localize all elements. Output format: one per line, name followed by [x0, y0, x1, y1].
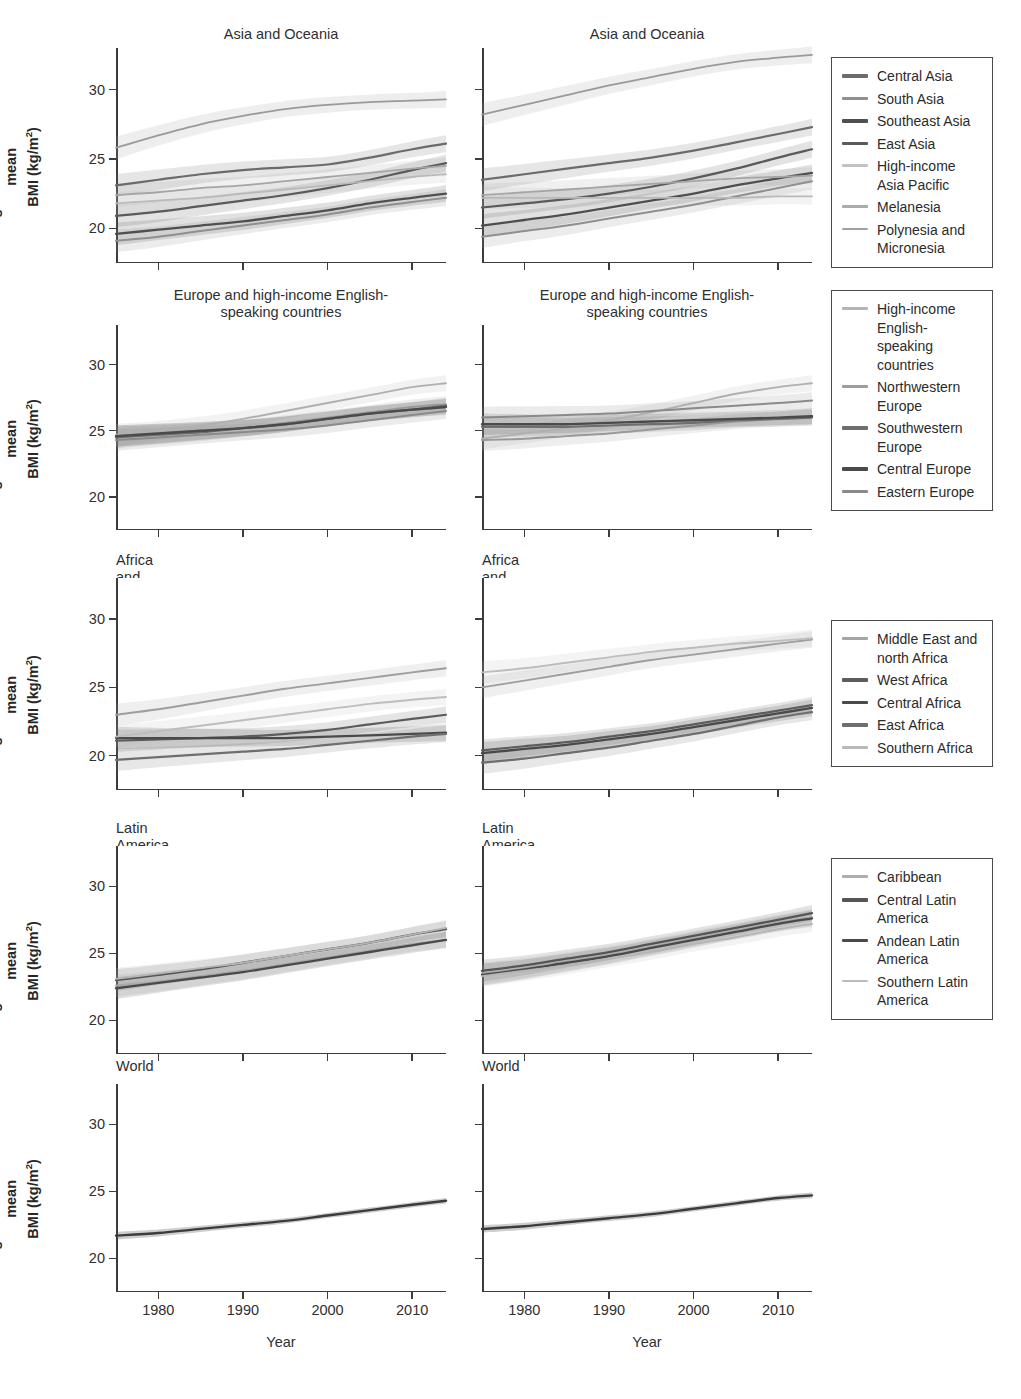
x-axis-title: Year: [587, 1334, 707, 1350]
x-tick: [524, 790, 525, 797]
series-canvas: [116, 578, 446, 790]
series-canvas: [116, 48, 446, 263]
x-axis-title: Year: [221, 1334, 341, 1350]
legend-item[interactable]: Central Africa: [842, 694, 984, 713]
legend-item[interactable]: East Africa: [842, 716, 984, 735]
y-tick: [475, 89, 482, 90]
legend-item[interactable]: Middle East and north Africa: [842, 630, 984, 667]
legend-item-label: Southern Africa: [877, 739, 973, 758]
x-tick: [777, 1292, 778, 1299]
panel-title: Asia and Oceania: [482, 26, 812, 43]
legend-line-icon: [842, 701, 868, 705]
credible-interval-band: [482, 630, 812, 684]
legend-item[interactable]: East Asia: [842, 135, 984, 154]
legend-item-label: Polynesia and Micronesia: [877, 221, 965, 258]
legend-item[interactable]: West Africa: [842, 671, 984, 690]
x-tick: [158, 1054, 159, 1061]
legend-line-icon: [842, 980, 868, 983]
legend-item[interactable]: Central Asia: [842, 67, 984, 86]
legend-item-label: Caribbean: [877, 868, 942, 887]
x-tick: [158, 790, 159, 797]
series-canvas: [116, 846, 446, 1054]
legend-item[interactable]: Southern Africa: [842, 739, 984, 758]
x-tick: [242, 790, 243, 797]
x-tick-label: 1980: [508, 1302, 540, 1318]
legend-africa: Middle East and north AfricaWest AfricaC…: [831, 620, 993, 767]
x-tick-label: 1990: [593, 1302, 625, 1318]
legend-item[interactable]: Southeast Asia: [842, 112, 984, 131]
legend-item[interactable]: Southwestern Europe: [842, 419, 984, 456]
legend-item[interactable]: South Asia: [842, 90, 984, 109]
x-tick-label: 2010: [396, 1302, 428, 1318]
y-axis-title: Age-standardised meanBMI (kg/m2): [0, 358, 42, 518]
legend-europe: High-income English- speaking countriesN…: [831, 290, 993, 511]
y-tick-label: 20: [89, 1012, 105, 1028]
y-tick: [109, 618, 116, 619]
x-tick: [411, 790, 412, 797]
legend-item-label: Southwestern Europe: [877, 419, 963, 456]
panel-title: World: [116, 1058, 154, 1075]
legend-item[interactable]: Andean Latin America: [842, 932, 984, 969]
y-tick: [109, 364, 116, 365]
plot-area: 202530: [116, 325, 446, 530]
legend-item-label: Central Asia: [877, 67, 952, 86]
legend-item-label: East Africa: [877, 716, 944, 735]
panel-title: Europe and high-income English- speaking…: [482, 287, 812, 321]
x-tick: [158, 530, 159, 537]
y-tick-label: 25: [89, 679, 105, 695]
legend-item[interactable]: Caribbean: [842, 868, 984, 887]
x-tick: [693, 1054, 694, 1061]
legend-item-label: Central Africa: [877, 694, 961, 713]
legend-line-icon: [842, 205, 868, 208]
y-tick: [109, 430, 116, 431]
legend-item-label: Central Latin America: [877, 891, 956, 928]
x-tick: [411, 1292, 412, 1299]
legend-item[interactable]: Northwestern Europe: [842, 378, 984, 415]
y-tick: [109, 228, 116, 229]
x-tick: [411, 1054, 412, 1061]
legend-line-icon: [842, 678, 868, 682]
legend-line-icon: [842, 426, 868, 430]
legend-item[interactable]: Central Europe: [842, 460, 984, 479]
legend-item[interactable]: Eastern Europe: [842, 483, 984, 502]
legend-item[interactable]: Polynesia and Micronesia: [842, 221, 984, 258]
y-tick: [475, 1191, 482, 1192]
y-tick: [475, 1124, 482, 1125]
legend-item[interactable]: Melanesia: [842, 198, 984, 217]
y-tick-label: 25: [89, 151, 105, 167]
legend-item[interactable]: High-income English- speaking countries: [842, 300, 984, 374]
x-tick: [693, 263, 694, 270]
y-tick: [109, 89, 116, 90]
panel-title: Asia and Oceania: [116, 26, 446, 43]
panel-title: Europe and high-income English- speaking…: [116, 287, 446, 321]
x-tick-label: 1990: [227, 1302, 259, 1318]
y-tick: [475, 430, 482, 431]
legend-item[interactable]: High-income Asia Pacific: [842, 157, 984, 194]
legend-line-icon: [842, 939, 868, 943]
y-axis-title: Age-standardised meanBMI (kg/m2): [0, 86, 42, 246]
legend-item[interactable]: Southern Latin America: [842, 973, 984, 1010]
y-tick-label: 20: [89, 489, 105, 505]
legend-line-icon: [842, 228, 868, 231]
legend-line-icon: [842, 746, 868, 749]
y-tick: [109, 953, 116, 954]
legend-line-icon: [842, 142, 868, 146]
x-tick: [327, 530, 328, 537]
y-tick: [475, 1258, 482, 1259]
y-tick: [475, 886, 482, 887]
series-canvas: [482, 846, 812, 1054]
y-tick-label: 30: [89, 1116, 105, 1132]
series-canvas: [482, 1084, 812, 1292]
legend-line-icon: [842, 723, 868, 727]
legend-line-icon: [842, 307, 868, 310]
legend-item[interactable]: Central Latin America: [842, 891, 984, 928]
plot-area: 2025301980199020002010: [116, 1084, 446, 1292]
legend-item-label: Eastern Europe: [877, 483, 974, 502]
legend-line-icon: [842, 164, 868, 167]
x-tick: [777, 790, 778, 797]
y-tick-label: 20: [89, 220, 105, 236]
x-tick: [242, 1054, 243, 1061]
x-tick: [693, 530, 694, 537]
y-tick: [109, 886, 116, 887]
y-tick-label: 20: [89, 1250, 105, 1266]
